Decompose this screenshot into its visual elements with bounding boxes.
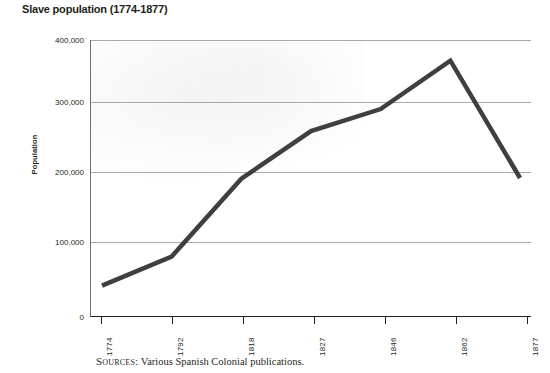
x-tick-mark-1862 [456,317,457,324]
x-tick-1827: 1827 [318,337,327,356]
source-note: Sources: Various Spanish Colonial public… [96,355,304,367]
x-tick-1818: 1818 [247,337,256,356]
x-tick-1862: 1862 [460,337,469,356]
x-tick-1792: 1792 [176,337,185,356]
x-tick-1846: 1846 [389,337,398,356]
y-tick-0: 0 [80,313,84,322]
y-axis-title: Population [30,115,39,195]
x-tick-mark-1792 [172,317,173,324]
x-tick-mark-1846 [385,317,386,324]
y-axis-tick-labels: 400,000 300,000 200,000 100,000 0 [14,40,84,317]
y-tick-200000: 200,000 [55,168,84,177]
x-axis-ticks [90,317,531,325]
chart-figure: Slave population (1774-1877) 400,000 300… [0,0,550,373]
series-line-slave-population [91,40,531,316]
x-tick-mark-1774 [101,317,102,324]
x-tick-mark-1827 [314,317,315,324]
y-tick-300000: 300,000 [55,98,84,107]
page-title: Slave population (1774-1877) [22,3,167,15]
x-tick-mark-1877 [527,317,528,324]
plot-area [90,40,531,317]
x-tick-1877: 1877 [531,337,540,356]
x-tick-1774: 1774 [105,337,114,356]
source-label: Sources: [96,355,138,367]
y-tick-400000: 400,000 [55,36,84,45]
y-tick-100000: 100,000 [55,238,84,247]
source-text: Various Spanish Colonial publications. [141,356,304,367]
x-tick-mark-1818 [243,317,244,324]
